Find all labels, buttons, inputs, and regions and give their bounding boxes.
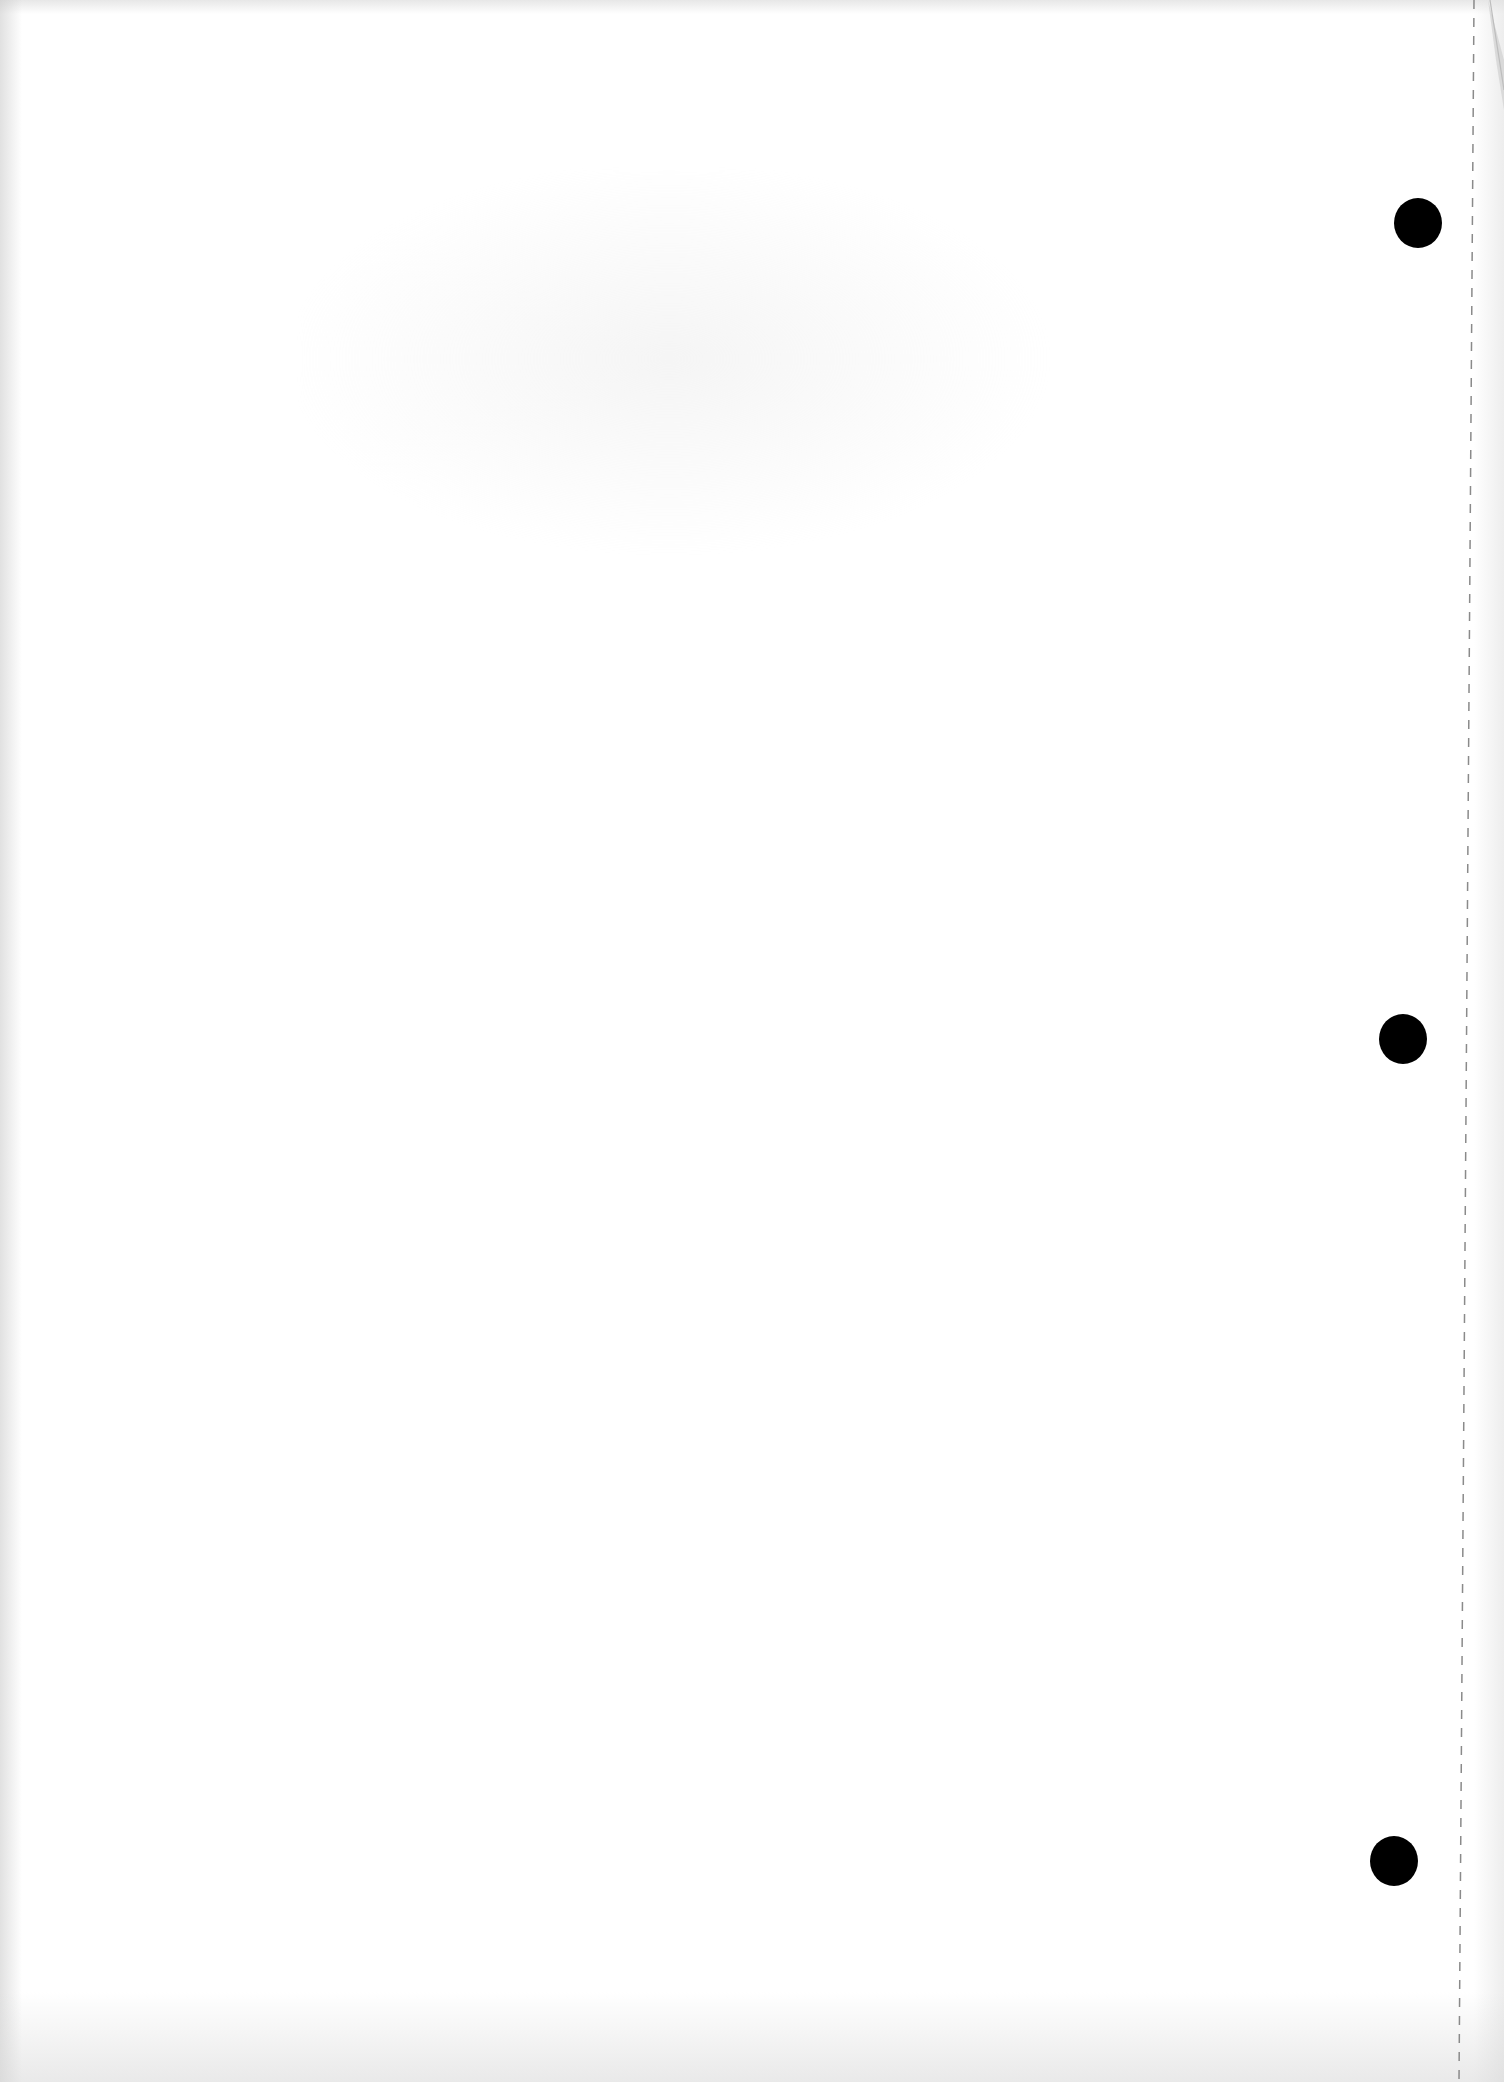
perforation-line — [0, 0, 1504, 2082]
corner-fold-icon — [1488, 0, 1504, 110]
punch-hole-2 — [1379, 1014, 1427, 1064]
punch-hole-1 — [1394, 198, 1442, 248]
scanned-page — [0, 0, 1504, 2082]
punch-hole-3 — [1370, 1836, 1418, 1886]
